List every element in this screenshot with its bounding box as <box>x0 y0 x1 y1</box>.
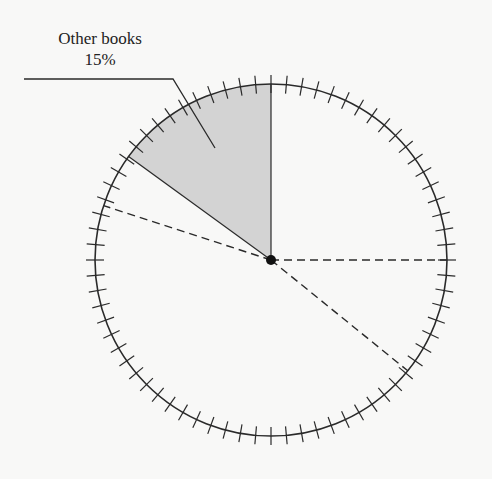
tick-mark <box>437 244 455 246</box>
tick-mark <box>367 397 377 412</box>
tick-mark <box>416 344 432 353</box>
tick-mark <box>103 182 119 190</box>
tick-mark <box>179 405 188 421</box>
tick-mark <box>152 388 164 402</box>
slice-label: Other books 15% <box>40 28 160 70</box>
tick-mark <box>129 367 143 379</box>
tick-mark <box>342 92 350 108</box>
tick-mark <box>408 154 423 164</box>
pie-chart <box>0 0 492 479</box>
tick-mark <box>437 275 455 277</box>
slice-label-value: 15% <box>40 49 160 70</box>
tick-mark <box>378 118 390 132</box>
tick-mark <box>408 356 423 366</box>
tick-mark <box>342 411 350 427</box>
tick-mark <box>286 76 288 94</box>
tick-mark <box>111 344 127 353</box>
tick-mark <box>255 426 257 444</box>
tick-mark <box>286 426 288 444</box>
tick-mark <box>119 356 134 366</box>
center-dot <box>266 255 276 265</box>
tick-mark <box>193 411 201 427</box>
dashed-radius <box>271 260 408 371</box>
tick-mark <box>103 331 119 339</box>
tick-mark <box>378 388 390 402</box>
tick-mark <box>355 100 364 116</box>
slice-label-title: Other books <box>40 28 160 49</box>
tick-mark <box>355 405 364 421</box>
tick-mark <box>422 331 438 339</box>
tick-mark <box>87 275 105 277</box>
tick-mark <box>87 244 105 246</box>
tick-mark <box>416 168 432 177</box>
tick-mark <box>422 182 438 190</box>
dashed-radii <box>104 206 447 371</box>
tick-mark <box>165 397 175 412</box>
tick-mark <box>111 168 127 177</box>
tick-mark <box>399 141 413 153</box>
tick-mark <box>367 108 377 123</box>
